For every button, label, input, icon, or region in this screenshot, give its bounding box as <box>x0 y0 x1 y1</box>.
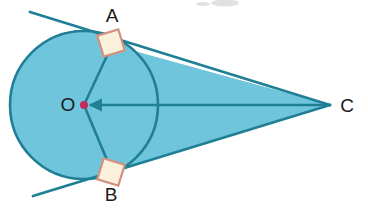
label-point-c: C <box>340 95 354 116</box>
label-point-a: A <box>106 5 119 26</box>
right-angle-mark-b <box>97 158 124 185</box>
label-point-o: O <box>61 94 76 115</box>
geometry-diagram-canvas: Circle with two tangent lines meeting at… <box>0 0 368 210</box>
page-edge-smudge <box>196 0 239 7</box>
label-point-b: B <box>105 184 118 205</box>
center-point-dot <box>80 101 88 109</box>
right-angle-mark-a <box>97 29 124 56</box>
geometry-figure: Circle with two tangent lines meeting at… <box>0 0 368 210</box>
